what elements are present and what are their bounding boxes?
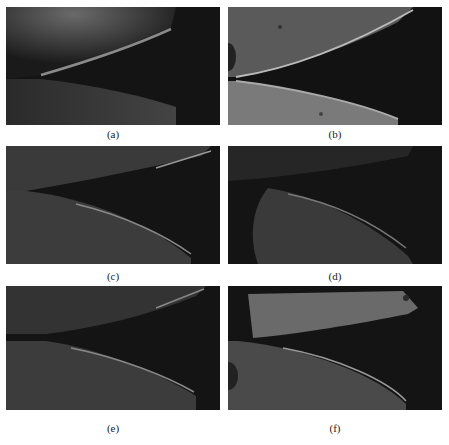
panel-f-image bbox=[228, 286, 442, 410]
panel-d-label: (d) bbox=[228, 270, 442, 282]
panel-b-image bbox=[228, 7, 442, 125]
panel-a-image bbox=[6, 7, 220, 125]
panel-e-label: (e) bbox=[6, 422, 220, 434]
panel-f-label: (f) bbox=[228, 422, 442, 434]
panel-e-image bbox=[6, 286, 220, 410]
panel-c-image bbox=[6, 146, 220, 264]
panel-a-label: (a) bbox=[6, 128, 220, 140]
panel-b-label: (b) bbox=[228, 128, 442, 140]
panel-c-label: (c) bbox=[6, 270, 220, 282]
panel-d-image bbox=[228, 146, 442, 264]
